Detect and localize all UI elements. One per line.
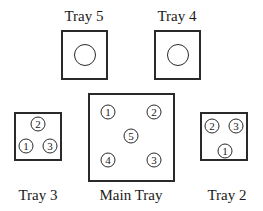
chip: 1 (101, 105, 116, 120)
empty-slot-circle (74, 44, 96, 66)
chip: 3 (43, 139, 58, 154)
tray-2: 2 3 1 (200, 112, 248, 161)
tray-5-label: Tray 5 (64, 9, 103, 24)
tray-2-label: Tray 2 (207, 188, 246, 203)
tray-3-label: Tray 3 (18, 188, 57, 203)
chip: 2 (31, 117, 46, 132)
chip: 5 (124, 129, 139, 144)
chip: 2 (147, 105, 162, 120)
tray-3: 2 1 3 (14, 112, 62, 161)
tray-4-label: Tray 4 (157, 9, 196, 24)
chip: 3 (147, 153, 162, 168)
main-tray: 1 2 5 4 3 (88, 93, 175, 182)
main-tray-label: Main Tray (100, 188, 163, 203)
chip: 1 (19, 139, 34, 154)
chip: 3 (229, 119, 244, 134)
empty-slot-circle (167, 44, 189, 66)
tray-5 (61, 30, 108, 80)
tray-4 (154, 30, 201, 80)
chip: 1 (218, 144, 233, 159)
chip: 4 (101, 153, 116, 168)
chip: 2 (205, 119, 220, 134)
